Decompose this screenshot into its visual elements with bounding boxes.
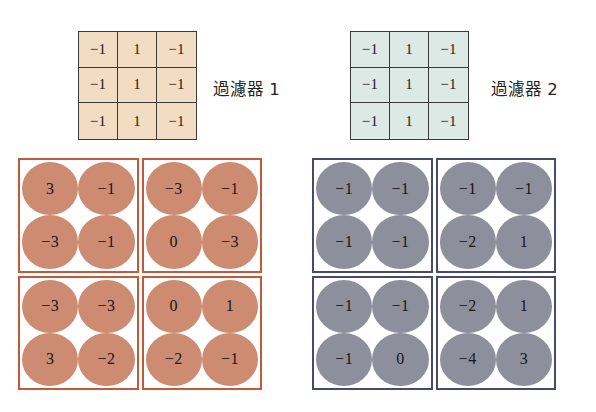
feature-node: 3: [22, 333, 78, 386]
feature-node-value: 3: [22, 333, 78, 386]
feature-node: −1: [316, 280, 372, 333]
feature-map-block: −1 −1 −1 0: [312, 276, 433, 391]
feature-node: −1: [202, 333, 258, 386]
feature-node: 1: [496, 215, 552, 268]
feature-node: −1: [316, 333, 372, 386]
feature-node: −1: [78, 215, 134, 268]
feature-node: −1: [372, 162, 428, 215]
feature-map-block: −1 −1 −1 −1: [312, 158, 433, 273]
feature-node-value: 0: [146, 280, 202, 333]
feature-node: −2: [440, 280, 496, 333]
feature-node: −3: [22, 280, 78, 333]
kernel-cell: −1: [79, 103, 118, 139]
feature-node: −1: [372, 280, 428, 333]
feature-node-value: −3: [146, 162, 202, 215]
feature-node: 0: [372, 333, 428, 386]
feature-node: 0: [146, 215, 202, 268]
feature-node: 3: [496, 333, 552, 386]
diagram-canvas: −1 1 −1 −1 1 −1 −1 1 −1 過濾器 1 −1 1 −1 −1…: [0, 0, 596, 412]
feature-map-block: 0 1 −2 −1: [142, 276, 263, 391]
feature-node-value: −1: [202, 333, 258, 386]
kernel-cell: 1: [390, 32, 429, 68]
kernel-cell: −1: [351, 68, 390, 104]
feature-node-value: −1: [372, 162, 428, 215]
feature-node-value: −1: [496, 162, 552, 215]
feature-node: −2: [78, 333, 134, 386]
feature-node: −1: [202, 162, 258, 215]
feature-node-value: −1: [316, 280, 372, 333]
feature-node: −1: [78, 162, 134, 215]
kernel-cell: −1: [351, 32, 390, 68]
kernel-cell: 1: [390, 103, 429, 139]
feature-node-value: −3: [22, 215, 78, 268]
feature-node: 0: [146, 280, 202, 333]
kernel-cell: −1: [351, 103, 390, 139]
feature-node-value: −1: [316, 215, 372, 268]
feature-map-group-blue: −1 −1 −1 −1 −1 −1 −2 1 −1 −1 −1 0 −2 1 −…: [312, 158, 556, 390]
kernel-cell: −1: [157, 68, 196, 104]
feature-node: −4: [440, 333, 496, 386]
filter-1-label: 過濾器 1: [213, 76, 280, 100]
feature-node: −3: [22, 215, 78, 268]
kernel-cell: 1: [390, 68, 429, 104]
feature-node-value: −1: [372, 215, 428, 268]
feature-node-value: −2: [78, 333, 134, 386]
feature-node-value: −4: [440, 333, 496, 386]
feature-node: −3: [202, 215, 258, 268]
kernel-cell: −1: [79, 68, 118, 104]
feature-node: −1: [440, 162, 496, 215]
feature-node: −3: [146, 162, 202, 215]
feature-node-value: −1: [202, 162, 258, 215]
kernel-cell: −1: [429, 103, 468, 139]
feature-map-block: −2 1 −4 3: [436, 276, 557, 391]
feature-map-block: −3 −1 0 −3: [142, 158, 263, 273]
feature-node: −2: [146, 333, 202, 386]
feature-map-block: −1 −1 −2 1: [436, 158, 557, 273]
feature-node-value: 1: [202, 280, 258, 333]
feature-node-value: −3: [78, 280, 134, 333]
feature-node: 3: [22, 162, 78, 215]
feature-map-group-orange: 3 −1 −3 −1 −3 −1 0 −3 −3 −3 3 −2 0 1 −2 …: [18, 158, 262, 390]
feature-map-block: −3 −3 3 −2: [18, 276, 139, 391]
kernel-cell: 1: [118, 32, 157, 68]
kernel-cell: −1: [429, 68, 468, 104]
kernel-cell: −1: [429, 32, 468, 68]
kernel-cell: −1: [157, 32, 196, 68]
feature-node-value: −1: [372, 280, 428, 333]
feature-node-value: −1: [440, 162, 496, 215]
filter-1-kernel-grid: −1 1 −1 −1 1 −1 −1 1 −1: [78, 31, 197, 140]
feature-node: −1: [316, 215, 372, 268]
kernel-cell: 1: [118, 103, 157, 139]
feature-node-value: −3: [22, 280, 78, 333]
kernel-cell: −1: [157, 103, 196, 139]
feature-node-value: −1: [78, 162, 134, 215]
feature-node-value: 1: [496, 280, 552, 333]
feature-node-value: 0: [372, 333, 428, 386]
feature-node-value: −3: [202, 215, 258, 268]
feature-node-value: 3: [22, 162, 78, 215]
kernel-cell: 1: [118, 68, 157, 104]
feature-node-value: −2: [146, 333, 202, 386]
feature-node: −1: [316, 162, 372, 215]
kernel-cell: −1: [79, 32, 118, 68]
filter-2-label: 過濾器 2: [491, 76, 558, 100]
feature-node: −1: [496, 162, 552, 215]
feature-node-value: 1: [496, 215, 552, 268]
filter-2-kernel-grid: −1 1 −1 −1 1 −1 −1 1 −1: [350, 31, 469, 140]
feature-node-value: −1: [316, 333, 372, 386]
feature-node-value: −2: [440, 280, 496, 333]
feature-node-value: −1: [316, 162, 372, 215]
feature-node: 1: [202, 280, 258, 333]
feature-node: −2: [440, 215, 496, 268]
feature-node-value: 0: [146, 215, 202, 268]
feature-node: −1: [372, 215, 428, 268]
feature-node: 1: [496, 280, 552, 333]
feature-node-value: −1: [78, 215, 134, 268]
feature-node-value: 3: [496, 333, 552, 386]
feature-map-block: 3 −1 −3 −1: [18, 158, 139, 273]
feature-node: −3: [78, 280, 134, 333]
feature-node-value: −2: [440, 215, 496, 268]
